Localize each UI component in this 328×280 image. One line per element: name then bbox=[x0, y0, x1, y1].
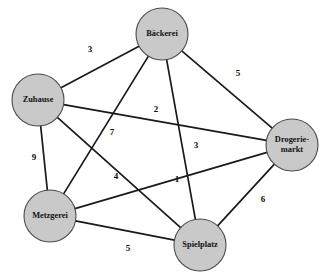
node-label-drogeriemarkt: markt bbox=[281, 145, 304, 154]
graph-edge-metzgerei-spielplatz bbox=[76, 221, 175, 240]
edge-weight-baeckerei-metzgerei: 7 bbox=[110, 127, 115, 137]
edge-weight-drogeriemarkt-spielplatz: 6 bbox=[261, 194, 266, 204]
nodes-layer: ZuhauseBäckereiDrogerie-marktMetzgereiSp… bbox=[12, 8, 318, 271]
edge-weight-zuhause-metzgerei: 9 bbox=[32, 152, 37, 162]
edge-weight-zuhause-drogeriemarkt: 2 bbox=[154, 104, 159, 114]
graph-node-spielplatz[interactable]: Spielplatz bbox=[174, 219, 226, 271]
graph-svg: ZuhauseBäckereiDrogerie-marktMetzgereiSp… bbox=[0, 0, 328, 280]
graph-node-zuhause[interactable]: Zuhause bbox=[12, 74, 64, 126]
graph-node-drogeriemarkt[interactable]: Drogerie-markt bbox=[266, 119, 318, 171]
graph-edge-baeckerei-drogeriemarkt bbox=[182, 51, 272, 128]
node-label-baeckerei: Bäckerei bbox=[146, 29, 178, 38]
graph-edge-metzgerei-drogeriemarkt bbox=[75, 152, 267, 208]
graph-edge-zuhause-baeckerei bbox=[61, 46, 139, 88]
graph-diagram-canvas: ZuhauseBäckereiDrogerie-marktMetzgereiSp… bbox=[0, 0, 328, 280]
edge-weight-baeckerei-drogeriemarkt: 5 bbox=[236, 68, 241, 78]
node-label-zuhause: Zuhause bbox=[23, 95, 54, 104]
edge-weight-baeckerei-spielplatz: 3 bbox=[194, 140, 199, 150]
graph-edge-zuhause-drogeriemarkt bbox=[64, 105, 267, 141]
node-label-drogeriemarkt: Drogerie- bbox=[275, 135, 309, 144]
edge-weight-zuhause-spielplatz: 4 bbox=[114, 171, 119, 181]
edge-weight-metzgerei-spielplatz: 5 bbox=[126, 243, 131, 253]
graph-node-baeckerei[interactable]: Bäckerei bbox=[136, 8, 188, 60]
edge-weight-zuhause-baeckerei: 3 bbox=[88, 44, 93, 54]
graph-edge-baeckerei-metzgerei bbox=[64, 56, 149, 194]
node-label-spielplatz: Spielplatz bbox=[182, 240, 218, 249]
graph-edge-drogeriemarkt-spielplatz bbox=[218, 164, 275, 226]
graph-edge-zuhause-metzgerei bbox=[41, 126, 48, 190]
graph-node-metzgerei[interactable]: Metzgerei bbox=[24, 190, 76, 242]
graph-edge-baeckerei-spielplatz bbox=[167, 60, 196, 220]
node-label-metzgerei: Metzgerei bbox=[32, 211, 68, 220]
edge-weight-metzgerei-drogeriemarkt: 1 bbox=[175, 174, 180, 184]
